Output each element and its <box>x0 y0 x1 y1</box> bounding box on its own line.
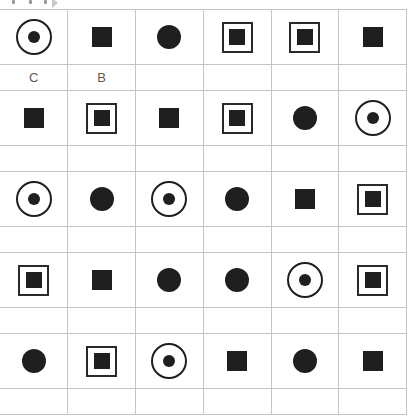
label-cell[interactable] <box>136 65 204 91</box>
filled-circle-icon <box>157 268 181 292</box>
shape-cell[interactable] <box>271 334 339 389</box>
label-cell[interactable] <box>203 227 271 253</box>
boxed-square-icon <box>289 22 320 53</box>
target-icon <box>151 181 187 217</box>
label-row: CB <box>0 65 407 91</box>
label-cell[interactable]: B <box>68 65 136 91</box>
shape-cell[interactable] <box>203 172 271 227</box>
shape-cell[interactable] <box>136 253 204 308</box>
label-cell[interactable] <box>0 389 68 415</box>
shape-cell[interactable] <box>0 10 68 65</box>
filled-circle-icon <box>90 187 114 211</box>
label-row <box>0 146 407 172</box>
label-cell[interactable] <box>203 308 271 334</box>
boxed-square-icon <box>357 184 388 215</box>
toolbar-fragment <box>0 0 408 9</box>
shape-cell[interactable] <box>0 253 68 308</box>
label-cell[interactable] <box>271 65 339 91</box>
shape-cell[interactable] <box>136 91 204 146</box>
label-cell[interactable] <box>339 65 407 91</box>
shape-cell[interactable] <box>203 334 271 389</box>
label-cell[interactable] <box>0 146 68 172</box>
boxed-square-icon <box>18 265 49 296</box>
shape-cell[interactable] <box>271 10 339 65</box>
filled-circle-icon <box>157 25 181 49</box>
label-cell[interactable] <box>68 389 136 415</box>
label-cell[interactable] <box>271 227 339 253</box>
label-cell[interactable] <box>0 308 68 334</box>
target-icon <box>16 19 52 55</box>
shape-cell[interactable] <box>339 10 407 65</box>
target-icon <box>16 181 52 217</box>
filled-circle-icon <box>293 106 317 130</box>
filled-circle-icon <box>22 349 46 373</box>
label-cell[interactable] <box>68 308 136 334</box>
shape-cell[interactable] <box>68 253 136 308</box>
cell-label: B <box>97 70 106 85</box>
shape-cell[interactable] <box>271 253 339 308</box>
shape-cell[interactable] <box>68 334 136 389</box>
toolbar-mark-icon[interactable] <box>44 0 47 4</box>
filled-circle-icon <box>293 349 317 373</box>
filled-square-icon <box>92 27 112 47</box>
label-cell[interactable] <box>136 308 204 334</box>
shape-cell[interactable] <box>0 334 68 389</box>
cell-label: C <box>29 70 38 85</box>
label-cell[interactable] <box>0 227 68 253</box>
label-cell[interactable] <box>68 227 136 253</box>
label-cell[interactable]: C <box>0 65 68 91</box>
shape-cell[interactable] <box>339 172 407 227</box>
shape-cell[interactable] <box>339 334 407 389</box>
shape-cell[interactable] <box>136 334 204 389</box>
label-cell[interactable] <box>339 227 407 253</box>
filled-square-icon <box>363 27 383 47</box>
shape-row <box>0 91 407 146</box>
shape-cell[interactable] <box>203 253 271 308</box>
label-cell[interactable] <box>136 389 204 415</box>
shape-cell[interactable] <box>203 91 271 146</box>
shape-row <box>0 334 407 389</box>
boxed-square-icon <box>222 22 253 53</box>
shape-cell[interactable] <box>136 172 204 227</box>
label-cell[interactable] <box>271 308 339 334</box>
shape-row <box>0 172 407 227</box>
target-icon <box>287 262 323 298</box>
shape-cell[interactable] <box>339 91 407 146</box>
filled-square-icon <box>159 108 179 128</box>
shape-cell[interactable] <box>0 172 68 227</box>
label-cell[interactable] <box>136 227 204 253</box>
shape-cell[interactable] <box>0 91 68 146</box>
label-cell[interactable] <box>136 146 204 172</box>
boxed-square-icon <box>222 103 253 134</box>
label-cell[interactable] <box>203 146 271 172</box>
shape-cell[interactable] <box>68 172 136 227</box>
shape-cell[interactable] <box>203 10 271 65</box>
boxed-square-icon <box>357 265 388 296</box>
target-icon <box>355 100 391 136</box>
shape-cell[interactable] <box>271 91 339 146</box>
shape-cell[interactable] <box>271 172 339 227</box>
label-cell[interactable] <box>271 389 339 415</box>
target-icon <box>151 343 187 379</box>
label-cell[interactable] <box>68 146 136 172</box>
boxed-square-icon <box>86 346 117 377</box>
shape-cell[interactable] <box>68 91 136 146</box>
label-cell[interactable] <box>203 389 271 415</box>
shape-cell[interactable] <box>339 253 407 308</box>
toolbar-mark-icon[interactable] <box>29 0 32 4</box>
filled-square-icon <box>363 351 383 371</box>
shape-row <box>0 10 407 65</box>
label-cell[interactable] <box>271 146 339 172</box>
shape-cell[interactable] <box>136 10 204 65</box>
shape-row <box>0 253 407 308</box>
label-cell[interactable] <box>339 308 407 334</box>
filled-square-icon <box>295 189 315 209</box>
shape-cell[interactable] <box>68 10 136 65</box>
toolbar-arrow-icon[interactable] <box>52 0 58 8</box>
label-row <box>0 389 407 415</box>
label-row <box>0 308 407 334</box>
label-cell[interactable] <box>339 389 407 415</box>
label-cell[interactable] <box>339 146 407 172</box>
label-cell[interactable] <box>203 65 271 91</box>
toolbar-mark-icon[interactable] <box>12 0 15 4</box>
